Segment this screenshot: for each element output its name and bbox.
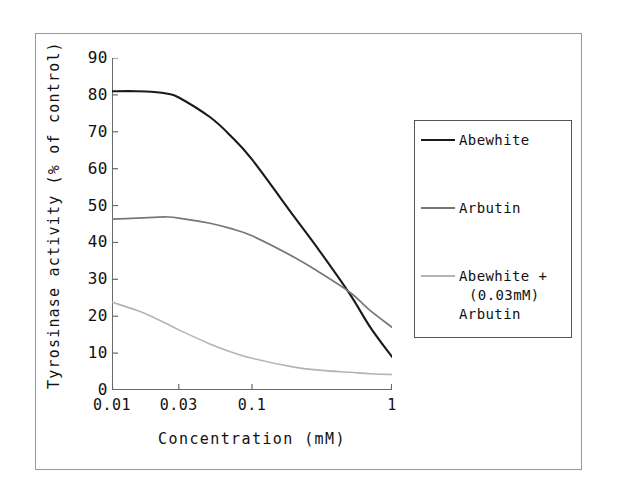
figure-canvas: 0102030405060708090 0.010.030.11 Tyrosin… <box>0 0 622 496</box>
legend-color-swatch <box>421 275 455 277</box>
legend-label-line: Abewhite + <box>459 267 547 286</box>
legend-label-line: (0.03mM) <box>459 286 547 305</box>
x-axis-tick-label: 0.01 <box>93 396 131 414</box>
series-line <box>112 217 392 327</box>
legend-label-line: Arbutin <box>459 305 547 324</box>
legend-color-swatch <box>421 139 455 141</box>
legend-label-line: Arbutin <box>459 199 521 218</box>
x-axis-title: Concentration (mM) <box>112 430 392 448</box>
legend-entry[interactable]: Arbutin <box>421 199 567 218</box>
x-axis-tick-label: 1 <box>387 396 397 414</box>
series-line <box>112 302 392 374</box>
plot-series-layer <box>112 58 392 390</box>
legend-label-line: Abewhite <box>459 131 530 150</box>
legend-entry[interactable]: Abewhite +(0.03mM)Arbutin <box>421 267 567 324</box>
x-axis-tick-label: 0.03 <box>160 396 198 414</box>
y-axis-title: Tyrosinase activity (% of control) <box>45 69 63 389</box>
legend-label: Abewhite +(0.03mM)Arbutin <box>459 267 547 324</box>
chart-legend: AbewhiteArbutinAbewhite +(0.03mM)Arbutin <box>414 120 572 338</box>
legend-color-swatch <box>421 207 455 209</box>
x-axis-tick-label: 0.1 <box>238 396 267 414</box>
legend-label: Abewhite <box>459 131 530 150</box>
legend-entry[interactable]: Abewhite <box>421 131 567 150</box>
legend-label: Arbutin <box>459 199 521 218</box>
